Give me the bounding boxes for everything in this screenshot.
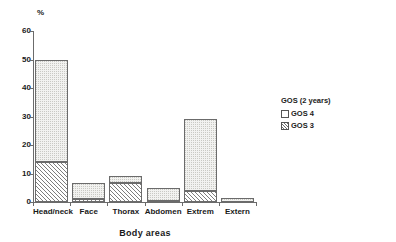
bar-segment-gos4 <box>147 188 180 201</box>
y-axis-unit-label: % <box>37 8 44 17</box>
legend-item-gos3[interactable]: GOS 3 <box>281 121 386 130</box>
bar-segment-gos3 <box>72 199 105 202</box>
x-axis-tick-mark <box>70 202 71 206</box>
bar-face[interactable] <box>72 31 105 202</box>
bar-head-neck[interactable] <box>35 31 68 202</box>
x-axis-tick-mark <box>107 202 108 206</box>
y-axis-tick-label: 40 <box>0 84 31 92</box>
bar-abdomen[interactable] <box>147 31 180 202</box>
x-axis-title: Body areas <box>0 228 290 238</box>
bar-segment-gos4 <box>184 119 217 190</box>
y-axis-tick-label: 30 <box>0 113 31 121</box>
legend-item-gos4[interactable]: GOS 4 <box>281 109 386 118</box>
bar-thorax[interactable] <box>109 31 142 202</box>
y-axis-tick-label: 50 <box>0 56 31 64</box>
legend-item-label: GOS 4 <box>291 109 314 118</box>
x-axis-tick-label: Abdomen <box>145 207 182 216</box>
bar-segment-gos3 <box>35 162 68 202</box>
bar-segment-gos3 <box>109 183 142 202</box>
x-axis-tick-label: Head/neck <box>33 207 70 216</box>
bar-segment-gos4 <box>109 176 142 183</box>
x-axis-tick-mark <box>219 202 220 206</box>
x-axis-tick-mark <box>182 202 183 206</box>
x-axis-tick-mark <box>145 202 146 206</box>
plot-area <box>33 25 258 205</box>
stacked-bar-chart: % 0102030405060 Head/neckFaceThoraxAbdom… <box>0 0 396 242</box>
x-axis-tick-label: Extern <box>219 207 256 216</box>
y-axis-tick-label: 60 <box>0 27 31 35</box>
chart-legend: GOS (2 years) GOS 4 GOS 3 <box>281 96 386 133</box>
x-axis-tick-label: Extrem <box>182 207 219 216</box>
legend-title: GOS (2 years) <box>281 96 386 105</box>
bar-extern[interactable] <box>221 31 254 202</box>
empty-square-icon <box>281 110 289 118</box>
y-axis-tick-label: 20 <box>0 141 31 149</box>
bar-segment-gos4 <box>221 198 254 202</box>
hatched-square-icon <box>281 122 289 130</box>
bar-extrem[interactable] <box>184 31 217 202</box>
y-axis-tick-label: 0 <box>0 198 31 206</box>
bar-segment-gos4 <box>35 60 68 163</box>
y-axis-tick-label: 10 <box>0 170 31 178</box>
bar-segment-gos4 <box>72 183 105 199</box>
x-axis-tick-mark <box>256 202 257 206</box>
x-axis-tick-label: Face <box>70 207 107 216</box>
legend-item-label: GOS 3 <box>291 121 314 130</box>
x-axis-tick-label: Thorax <box>107 207 144 216</box>
x-axis-tick-mark <box>33 202 34 206</box>
bar-segment-gos3 <box>184 191 217 202</box>
